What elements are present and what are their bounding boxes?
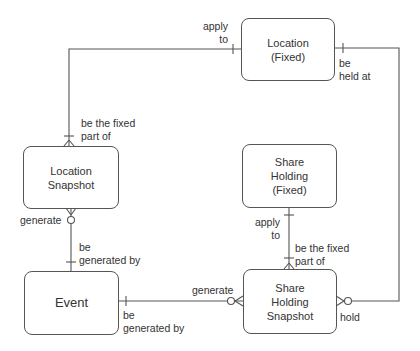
label-be-the-fixed-part-of-shareholding: be the fixed part of bbox=[295, 242, 349, 268]
entity-share-holding-snapshot[interactable]: Share Holding Snapshot bbox=[243, 269, 337, 334]
label-be-held-at: be held at bbox=[339, 57, 371, 83]
label-be-generated-by-event: be generated by bbox=[123, 309, 184, 335]
entity-share-holding-fixed[interactable]: Share Holding (Fixed) bbox=[242, 144, 337, 208]
label-be-the-fixed-part-of-location: be the fixed part of bbox=[81, 117, 135, 143]
entity-event[interactable]: Event bbox=[24, 271, 119, 335]
label-be-generated-by-location: be generated by bbox=[79, 241, 140, 267]
label-generate-location: generate bbox=[20, 214, 61, 227]
label-apply-to-location: apply to bbox=[196, 20, 228, 46]
entity-location-snapshot[interactable]: Location Snapshot bbox=[23, 146, 119, 209]
label-apply-to-shareholding: apply to bbox=[245, 216, 280, 242]
entity-location-fixed[interactable]: Location (Fixed) bbox=[241, 18, 335, 81]
label-generate-shareholding: generate bbox=[192, 284, 233, 297]
label-hold: hold bbox=[340, 311, 360, 324]
